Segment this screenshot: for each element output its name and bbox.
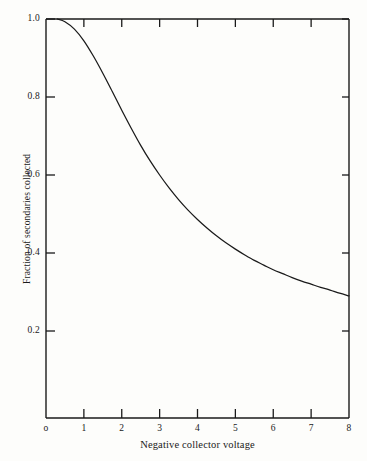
chart-figure: 1.00.80.60.40.2 o12345678 Fraction of se… [0, 0, 367, 461]
x-tick-label: 6 [263, 423, 283, 433]
y-tick-label: 1.0 [28, 13, 40, 23]
y-tick-label: 0.8 [28, 91, 40, 101]
x-tick-label: 1 [74, 423, 94, 433]
x-axis-title: Negative collector voltage [46, 439, 349, 450]
x-axis-ticks [84, 19, 311, 418]
x-tick-label: 2 [112, 423, 132, 433]
x-tick-label: 7 [301, 423, 321, 433]
y-axis-title: Fraction of secondaries collected [22, 153, 32, 283]
x-tick-label: 5 [225, 423, 245, 433]
x-tick-label: 4 [188, 423, 208, 433]
x-tick-label: o [36, 423, 56, 433]
plot-area [0, 0, 367, 461]
x-tick-label: 3 [150, 423, 170, 433]
y-tick-label: 0.2 [28, 325, 40, 335]
x-tick-label: 8 [339, 423, 359, 433]
data-series-line [57, 19, 349, 296]
y-axis-ticks [46, 19, 349, 331]
plot-frame [46, 19, 349, 418]
